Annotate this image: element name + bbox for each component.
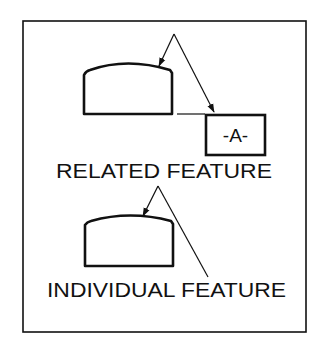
- leader-line-to-individual-part: [143, 186, 158, 216]
- related-feature-label: RELATED FEATURE: [56, 159, 272, 182]
- diagram-canvas: -A- RELATED FEATURE INDIVIDUAL FEATURE: [0, 0, 326, 344]
- individual-feature-label: INDIVIDUAL FEATURE: [47, 278, 286, 301]
- leader-line-to-individual-label: [158, 186, 208, 277]
- leader-line-to-part: [159, 34, 174, 66]
- datum-symbol-text: -A-: [223, 125, 248, 146]
- related-feature-group: -A- RELATED FEATURE: [56, 34, 272, 182]
- individual-part-outline: [85, 216, 173, 267]
- leader-line-to-datum: [174, 34, 214, 112]
- related-part-outline: [84, 64, 172, 115]
- individual-feature-group: INDIVIDUAL FEATURE: [47, 186, 286, 301]
